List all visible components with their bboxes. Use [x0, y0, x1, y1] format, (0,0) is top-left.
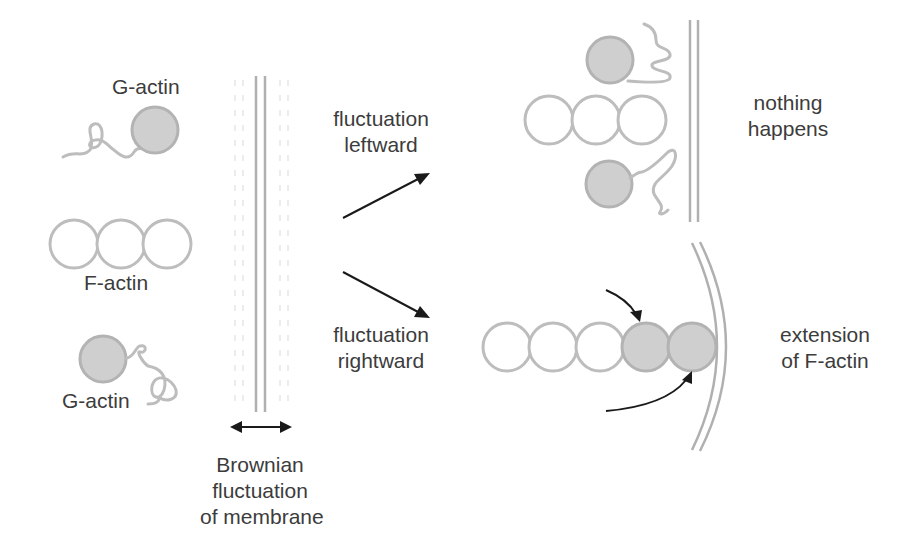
outcome-nothing-happens — [525, 20, 698, 222]
label-rightward: fluctuation rightward — [316, 322, 446, 374]
label-extension: extension of F-actin — [765, 322, 885, 374]
label-nothing-happens: nothing happens — [738, 90, 838, 142]
nothing-line-2: happens — [738, 116, 838, 142]
double-arrow-icon — [230, 421, 292, 433]
nothing-line-1: nothing — [738, 90, 838, 116]
label-leftward: fluctuation leftward — [316, 106, 446, 158]
rightward-line-2: rightward — [316, 348, 446, 374]
caption-line-3: of membrane — [200, 504, 320, 530]
label-f-actin: F-actin — [84, 270, 148, 296]
rightward-line-1: fluctuation — [316, 322, 446, 348]
g-actin-top — [63, 107, 178, 157]
leftward-line-1: fluctuation — [316, 106, 446, 132]
membrane-fluctuating — [235, 76, 288, 412]
extension-line-2: of F-actin — [765, 348, 885, 374]
label-g-actin-top: G-actin — [112, 74, 180, 100]
extension-line-1: extension — [765, 322, 885, 348]
label-membrane-caption: Brownian fluctuation of membrane — [200, 452, 320, 530]
f-actin-filament — [50, 220, 191, 268]
arrow-rightward — [343, 272, 430, 318]
outcome-extension — [483, 242, 726, 451]
leftward-line-2: leftward — [316, 132, 446, 158]
caption-line-1: Brownian — [200, 452, 320, 478]
arrow-leftward — [343, 173, 430, 218]
caption-line-2: fluctuation — [200, 478, 320, 504]
label-g-actin-bottom: G-actin — [62, 388, 130, 414]
